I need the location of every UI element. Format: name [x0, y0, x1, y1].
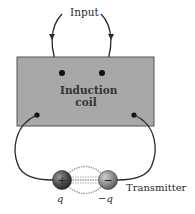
input-arrow-right [108, 34, 114, 40]
terminal-input-left [59, 70, 65, 76]
terminal-input-right [99, 70, 105, 76]
negative-charge-label: −q [98, 193, 113, 204]
coil-label-line1: Induction [60, 84, 112, 96]
induction-coil-label: Induction coil [60, 84, 112, 108]
input-arrow-left [49, 34, 55, 40]
negative-symbol: − [103, 174, 112, 187]
input-label: Input [70, 6, 99, 18]
coil-label-line2: coil [60, 96, 112, 108]
positive-charge-label: q [57, 193, 63, 204]
transmitter-label: Transmitter [126, 182, 186, 193]
spark-discharge [68, 167, 102, 194]
positive-symbol: + [57, 174, 66, 187]
